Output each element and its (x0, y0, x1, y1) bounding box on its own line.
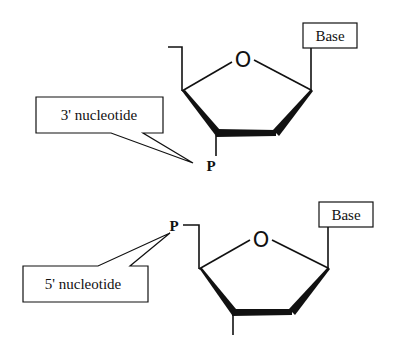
top-c5-bond (168, 47, 182, 91)
top-wedge-right (273, 89, 313, 136)
bottom-wedge-right (289, 267, 330, 315)
bottom-wedge-bottom (232, 309, 292, 316)
nucleotide-diagram: O Base P 3' nucleotide O Base P 5' nucle… (0, 0, 400, 357)
bottom-ring-bond (272, 240, 328, 268)
bottom-wedge-left (199, 268, 236, 315)
bottom-ring-bond (199, 240, 250, 269)
bottom-nucleotide (23, 202, 373, 335)
top-base-label: Base (315, 28, 345, 44)
bottom-phosphate-label: P (169, 218, 178, 234)
top-nucleotide (36, 23, 357, 163)
bottom-c5-bond (183, 225, 199, 269)
bottom-oxygen-label: O (253, 228, 270, 252)
bottom-base-label: Base (331, 207, 361, 223)
top-wedge-bottom (216, 129, 276, 137)
top-oxygen-label: O (235, 48, 252, 72)
top-phosphate-label: P (206, 158, 215, 174)
top-ring-bond (182, 62, 232, 91)
bottom-callout-label: 5' nucleotide (45, 276, 122, 292)
top-wedge-left (182, 90, 220, 136)
top-ring-bond (254, 60, 311, 90)
top-callout-label: 3' nucleotide (61, 107, 138, 123)
